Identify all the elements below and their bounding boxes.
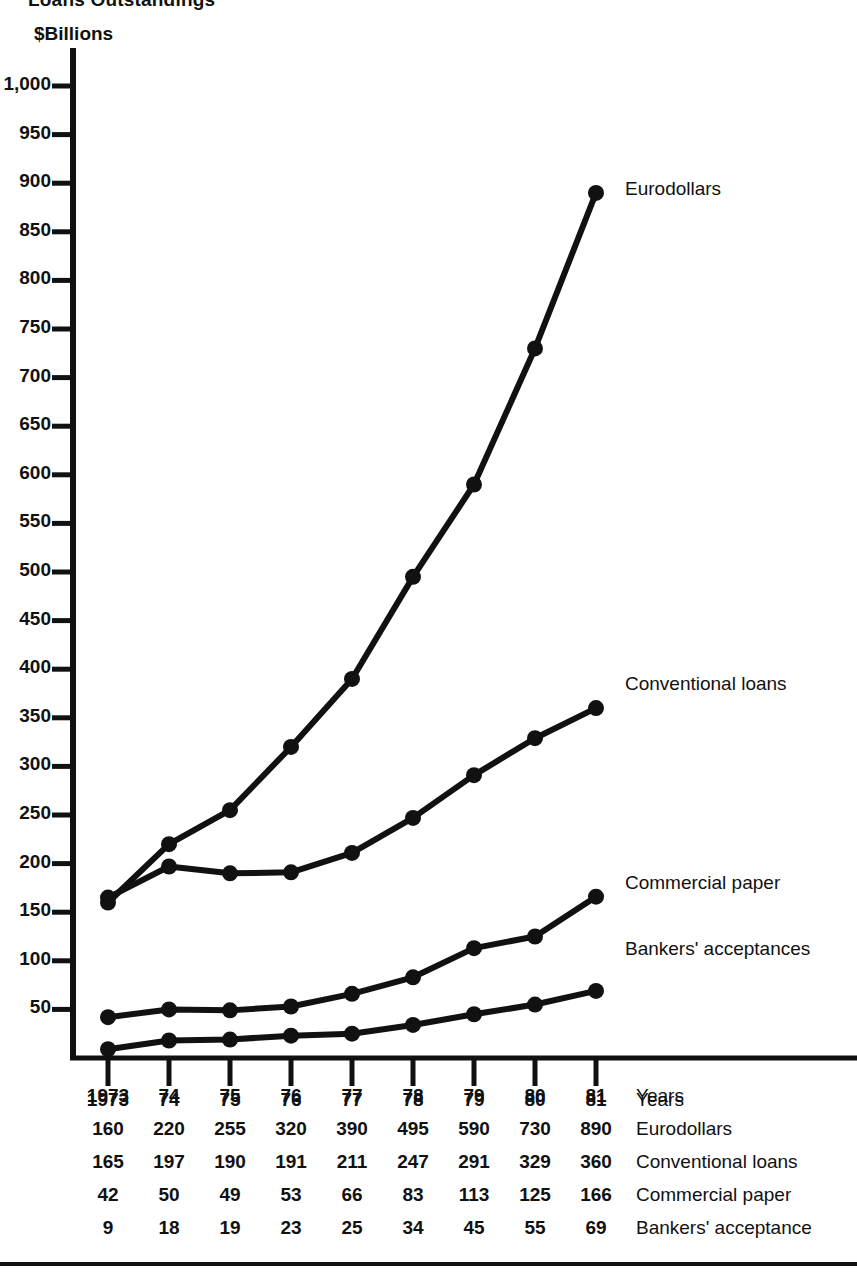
data-point-marker bbox=[283, 864, 299, 880]
data-point-marker bbox=[283, 739, 299, 755]
series-line bbox=[108, 193, 596, 903]
series-label-eurodollars: Eurodollars bbox=[625, 178, 721, 200]
y-tick-label: 400 bbox=[0, 656, 51, 678]
table-cell: 197 bbox=[134, 1151, 204, 1173]
data-point-marker bbox=[527, 929, 543, 945]
table-cell: 291 bbox=[439, 1151, 509, 1173]
data-point-marker bbox=[283, 998, 299, 1014]
data-point-marker bbox=[466, 767, 482, 783]
y-tick-label: 550 bbox=[0, 510, 51, 532]
table-cell: 495 bbox=[378, 1118, 448, 1140]
table-row: 160220255320390495590730890Eurodollars bbox=[0, 1118, 857, 1151]
table-row-label: Eurodollars bbox=[636, 1118, 732, 1140]
y-tick-label: 150 bbox=[0, 899, 51, 921]
series-group bbox=[100, 185, 604, 1057]
table-cell: 66 bbox=[317, 1184, 387, 1206]
data-point-marker bbox=[527, 340, 543, 356]
data-table: 19737475767778798081Years160220255320390… bbox=[0, 1085, 857, 1250]
table-cell: 329 bbox=[500, 1151, 570, 1173]
table-cell: 79 bbox=[439, 1085, 509, 1107]
table-cell: 81 bbox=[561, 1085, 631, 1107]
y-tick-label: 500 bbox=[0, 559, 51, 581]
table-cell: 191 bbox=[256, 1151, 326, 1173]
table-cell: 53 bbox=[256, 1184, 326, 1206]
table-cell: 55 bbox=[500, 1217, 570, 1239]
bottom-rule bbox=[0, 1262, 857, 1266]
data-point-marker bbox=[405, 810, 421, 826]
y-tick-label: 600 bbox=[0, 462, 51, 484]
table-cell: 80 bbox=[500, 1085, 570, 1107]
y-tick-label: 350 bbox=[0, 705, 51, 727]
table-cell: 590 bbox=[439, 1118, 509, 1140]
data-point-marker bbox=[527, 730, 543, 746]
data-point-marker bbox=[283, 1028, 299, 1044]
table-cell: 211 bbox=[317, 1151, 387, 1173]
data-point-marker bbox=[161, 836, 177, 852]
y-tick-label: 100 bbox=[0, 948, 51, 970]
table-cell: 78 bbox=[378, 1085, 448, 1107]
data-point-marker bbox=[222, 1032, 238, 1048]
table-cell: 49 bbox=[195, 1184, 265, 1206]
data-point-marker bbox=[466, 940, 482, 956]
data-point-marker bbox=[588, 700, 604, 716]
table-cell: 165 bbox=[73, 1151, 143, 1173]
table-cell: 9 bbox=[73, 1217, 143, 1239]
table-cell: 74 bbox=[134, 1085, 204, 1107]
y-tick-label: 650 bbox=[0, 413, 51, 435]
table-cell: 360 bbox=[561, 1151, 631, 1173]
table-cell: 77 bbox=[317, 1085, 387, 1107]
table-cell: 1973 bbox=[73, 1085, 143, 1107]
table-row-label: Commercial paper bbox=[636, 1184, 791, 1206]
table-row: 19737475767778798081Years bbox=[0, 1085, 857, 1118]
table-cell: 125 bbox=[500, 1184, 570, 1206]
y-tick-label: 850 bbox=[0, 219, 51, 241]
table-cell: 390 bbox=[317, 1118, 387, 1140]
data-point-marker bbox=[100, 1009, 116, 1025]
y-tick-label: 750 bbox=[0, 316, 51, 338]
data-point-marker bbox=[466, 1006, 482, 1022]
y-tick-label: 50 bbox=[0, 996, 51, 1018]
data-point-marker bbox=[344, 671, 360, 687]
table-cell: 76 bbox=[256, 1085, 326, 1107]
series-line bbox=[108, 708, 596, 898]
table-cell: 18 bbox=[134, 1217, 204, 1239]
axes-group bbox=[52, 48, 857, 1086]
data-point-marker bbox=[344, 845, 360, 861]
table-row: 425049536683113125166Commercial paper bbox=[0, 1184, 857, 1217]
table-cell: 160 bbox=[73, 1118, 143, 1140]
series-label-conventional: Conventional loans bbox=[625, 673, 787, 695]
table-row-label: Years bbox=[636, 1085, 684, 1107]
table-cell: 50 bbox=[134, 1184, 204, 1206]
y-tick-label: 300 bbox=[0, 753, 51, 775]
table-cell: 320 bbox=[256, 1118, 326, 1140]
table-cell: 23 bbox=[256, 1217, 326, 1239]
y-tick-label: 900 bbox=[0, 170, 51, 192]
table-row-label: Conventional loans bbox=[636, 1151, 798, 1173]
table-cell: 220 bbox=[134, 1118, 204, 1140]
data-point-marker bbox=[405, 1017, 421, 1033]
table-row: 165197190191211247291329360Conventional … bbox=[0, 1151, 857, 1184]
data-point-marker bbox=[161, 859, 177, 875]
y-tick-label: 200 bbox=[0, 851, 51, 873]
y-tick-label: 950 bbox=[0, 122, 51, 144]
data-point-marker bbox=[222, 865, 238, 881]
data-point-marker bbox=[161, 1033, 177, 1049]
data-point-marker bbox=[344, 1026, 360, 1042]
data-point-marker bbox=[100, 1041, 116, 1057]
data-point-marker bbox=[466, 477, 482, 493]
table-row-label: Bankers' acceptance bbox=[636, 1217, 812, 1239]
data-point-marker bbox=[161, 1001, 177, 1017]
data-point-marker bbox=[405, 969, 421, 985]
data-point-marker bbox=[405, 569, 421, 585]
table-cell: 75 bbox=[195, 1085, 265, 1107]
table-cell: 25 bbox=[317, 1217, 387, 1239]
y-tick-label: 700 bbox=[0, 365, 51, 387]
data-point-marker bbox=[344, 986, 360, 1002]
data-point-marker bbox=[527, 997, 543, 1013]
y-tick-label: 800 bbox=[0, 267, 51, 289]
data-point-marker bbox=[100, 890, 116, 906]
table-cell: 42 bbox=[73, 1184, 143, 1206]
table-cell: 255 bbox=[195, 1118, 265, 1140]
y-tick-label: 1,000 bbox=[0, 73, 51, 95]
y-tick-label: 250 bbox=[0, 802, 51, 824]
